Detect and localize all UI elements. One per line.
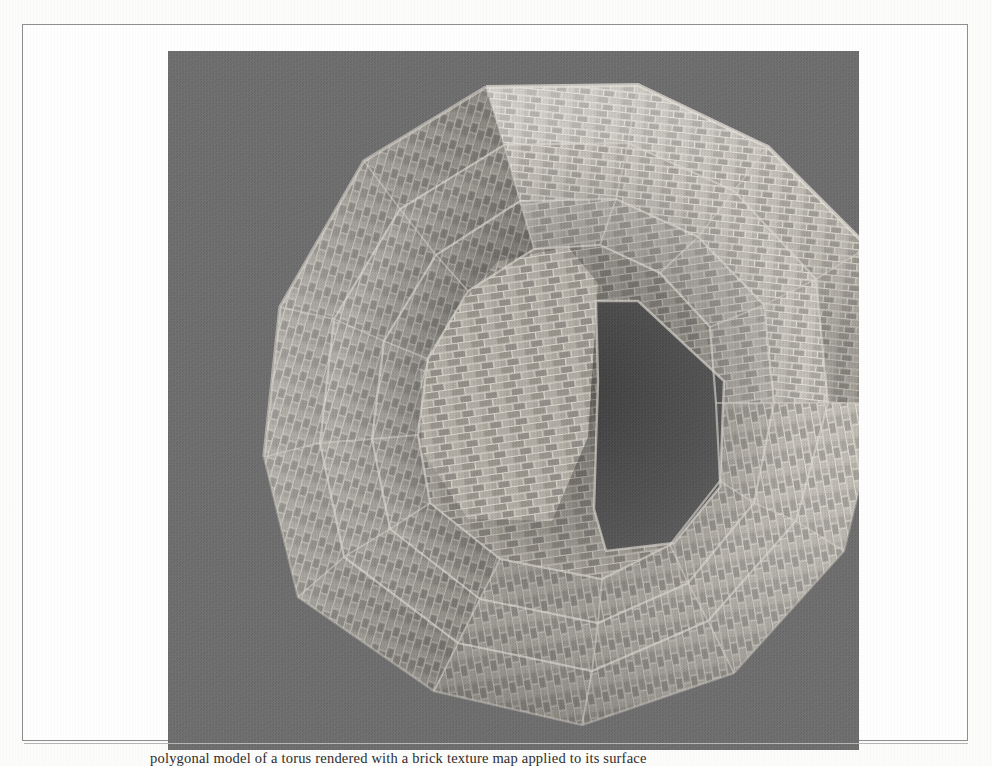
figure-frame-border [22, 24, 968, 741]
scanned-page: polygonal model of a torus rendered with… [0, 0, 992, 766]
figure-caption: polygonal model of a torus rendered with… [150, 750, 910, 766]
frame-bottom-shadow-rule [24, 743, 968, 744]
torus-render [168, 51, 859, 750]
torus-body [264, 85, 859, 725]
rendered-image-plate [168, 51, 859, 750]
